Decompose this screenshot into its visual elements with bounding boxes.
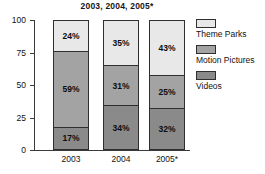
plot-area: 100 75 50 25 0 24% 59% 17% 2003: [34, 20, 186, 151]
y-tick-label-100: 100: [12, 15, 26, 25]
bar-2004-label-motion-pictures: 31%: [112, 81, 129, 91]
bar-2005-label-motion-pictures: 25%: [158, 87, 175, 97]
chart-legend: Theme Parks Motion Pictures Videos: [196, 19, 264, 97]
bar-2004-label-theme-parks: 35%: [112, 38, 129, 48]
x-axis-line: [34, 150, 190, 151]
bar-2005-segment-motion-pictures[interactable]: 25%: [149, 75, 185, 109]
legend-label-videos: Videos: [196, 81, 264, 92]
chart-subtitle: 2003, 2004, 2005*: [62, 1, 172, 11]
y-tick-label-25: 25: [17, 113, 26, 123]
bar-2005-label-theme-parks: 43%: [158, 43, 175, 53]
bar-2004-segment-theme-parks[interactable]: 35%: [103, 20, 139, 66]
y-tick-75: 75: [30, 53, 35, 54]
legend-label-motion-pictures: Motion Pictures: [196, 55, 264, 66]
bar-2004[interactable]: 35% 31% 34%: [103, 20, 139, 150]
bar-2003-segment-motion-pictures[interactable]: 59%: [53, 51, 89, 127]
bar-2003-label-motion-pictures: 59%: [62, 84, 79, 94]
x-tick-label-2004: 2004: [98, 154, 144, 164]
legend-swatch-motion-pictures: [196, 45, 216, 54]
bar-2004-segment-videos[interactable]: 34%: [103, 105, 139, 150]
legend-item-videos[interactable]: Videos: [196, 71, 264, 92]
bar-2005-segment-videos[interactable]: 32%: [149, 108, 185, 150]
bar-2004-segment-motion-pictures[interactable]: 31%: [103, 65, 139, 106]
legend-item-theme-parks[interactable]: Theme Parks: [196, 19, 264, 40]
x-tick-label-2005: 2005*: [144, 154, 190, 164]
legend-label-theme-parks: Theme Parks: [196, 29, 264, 40]
y-tick-100: 100: [30, 20, 35, 21]
y-tick-0: 0: [30, 150, 35, 151]
legend-swatch-theme-parks: [196, 19, 216, 28]
bar-2003-segment-videos[interactable]: 17%: [53, 127, 89, 150]
bar-2005-segment-theme-parks[interactable]: 43%: [149, 20, 185, 76]
bar-2005-label-videos: 32%: [158, 124, 175, 134]
legend-item-motion-pictures[interactable]: Motion Pictures: [196, 45, 264, 66]
bar-2003-label-theme-parks: 24%: [62, 31, 79, 41]
y-tick-label-50: 50: [17, 80, 26, 90]
y-tick-label-0: 0: [21, 145, 26, 155]
legend-swatch-videos: [196, 71, 216, 80]
bar-2003-segment-theme-parks[interactable]: 24%: [53, 20, 89, 52]
stacked-bar-chart: 2003, 2004, 2005* 100 75 50 25 0 24% 59%: [0, 0, 265, 174]
bar-2003-label-videos: 17%: [62, 133, 79, 143]
bar-2004-label-videos: 34%: [112, 123, 129, 133]
bar-2003[interactable]: 24% 59% 17%: [53, 20, 89, 150]
bar-2005[interactable]: 43% 25% 32%: [149, 20, 185, 150]
x-tick-label-2003: 2003: [48, 154, 94, 164]
y-tick-50: 50: [30, 85, 35, 86]
y-tick-25: 25: [30, 118, 35, 119]
y-tick-label-75: 75: [17, 48, 26, 58]
